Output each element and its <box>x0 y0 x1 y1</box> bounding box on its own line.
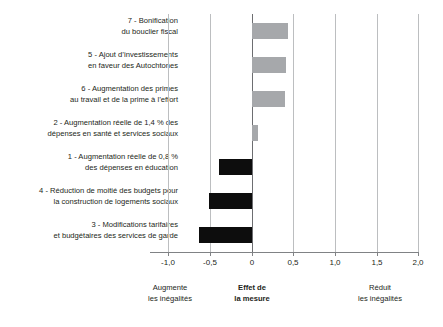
caption-left-line1: Augmente <box>153 283 188 292</box>
bar-measure-6 <box>252 91 285 107</box>
category-label-line1: 3 - Modifications tarifaires <box>91 220 178 229</box>
chart-container: 7 - Bonification du bouclier fiscal 5 - … <box>0 0 443 327</box>
caption-right-line2: les inégalités <box>320 294 440 305</box>
tick-zero <box>252 252 253 256</box>
tick-1-0 <box>335 252 336 256</box>
bar-measure-2 <box>252 125 258 141</box>
tick-label-1-5: 1,5 <box>357 258 397 267</box>
category-axis-labels: 7 - Bonification du bouclier fiscal 5 - … <box>0 14 182 252</box>
category-label-line1: 6 - Augmentation des primes <box>81 84 178 93</box>
category-label-line2: des dépenses en éducation <box>85 163 178 172</box>
category-label-line2: et budgétaires des services de garde <box>53 231 178 240</box>
category-label-line2: au travail et de la prime à l’effort <box>70 95 178 104</box>
plot-area <box>168 14 418 252</box>
category-label-line2: la construction de logements sociaux <box>53 197 178 206</box>
tick-label-2-0: 2,0 <box>398 258 438 267</box>
category-label-line1: 1 - Augmentation réelle de 0,8 % <box>68 152 178 161</box>
category-label: 6 - Augmentation des primes au travail e… <box>0 84 178 105</box>
tick-2-0 <box>418 252 419 256</box>
tick-label-minus-1: -1,0 <box>148 258 188 267</box>
bar-series <box>168 14 418 252</box>
category-label-line1: 2 - Augmentation réelle de 1,4 % des <box>53 118 178 127</box>
tick-label-zero: 0 <box>232 258 272 267</box>
bar-measure-1 <box>219 159 252 175</box>
caption-center-line1: Effet de <box>238 283 266 292</box>
category-label-line2: dépenses en santé et services sociaux <box>48 129 178 138</box>
tick-1-5 <box>377 252 378 256</box>
caption-center-line2: la mesure <box>192 294 312 305</box>
bar-measure-3 <box>199 227 252 243</box>
bar-row <box>168 150 418 184</box>
bar-row <box>168 218 418 252</box>
tick-label-1-0: 1,0 <box>315 258 355 267</box>
gridline-2-0 <box>418 14 419 252</box>
x-axis-line-extension <box>150 252 168 253</box>
bar-row <box>168 184 418 218</box>
caption-reduces-inequality: Réduit les inégalités <box>320 283 440 304</box>
category-label-line2: en faveur des Autochtones <box>88 61 178 70</box>
bar-row <box>168 116 418 150</box>
category-label-line1: 5 - Ajout d’investissements <box>88 50 178 59</box>
bar-row <box>168 82 418 116</box>
category-label: 3 - Modifications tarifaires et budgétai… <box>0 220 178 241</box>
bar-row <box>168 48 418 82</box>
category-label: 4 - Réduction de moitié des budgets pour… <box>0 186 178 207</box>
bar-measure-4 <box>209 193 252 209</box>
tick-0-5 <box>293 252 294 256</box>
bar-measure-5 <box>252 57 286 73</box>
category-label: 2 - Augmentation réelle de 1,4 % des dép… <box>0 118 178 139</box>
category-label: 7 - Bonification du bouclier fiscal <box>0 16 178 37</box>
tick-minus-0-5 <box>210 252 211 256</box>
category-label: 5 - Ajout d’investissements en faveur de… <box>0 50 178 71</box>
tick-label-minus-0-5: -0,5 <box>190 258 230 267</box>
bar-row <box>168 14 418 48</box>
caption-effect-of-measure: Effet de la mesure <box>192 283 312 304</box>
bar-measure-7 <box>252 23 288 39</box>
tick-minus-1 <box>168 252 169 256</box>
category-label-line1: 4 - Réduction de moitié des budgets pour <box>39 186 178 195</box>
caption-right-line1: Réduit <box>369 283 391 292</box>
category-label: 1 - Augmentation réelle de 0,8 % des dép… <box>0 152 178 173</box>
tick-label-0-5: 0,5 <box>273 258 313 267</box>
